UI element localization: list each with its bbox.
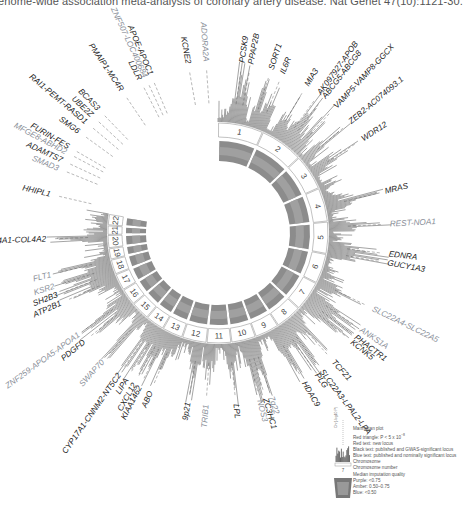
chromosome-rings: 12345678910111213141516171819202122 [108, 123, 328, 343]
locus-label: SWAP70 [77, 357, 106, 388]
chromosome-22: 22 [108, 214, 147, 227]
locus-label: TRIB1 [200, 404, 211, 428]
locus-label: LPL [232, 404, 242, 419]
chromosome-11: 11 [207, 305, 231, 343]
svg-text:7: 7 [342, 468, 345, 473]
legend-item-black-text: Black text: published and GWAS-significa… [353, 447, 456, 453]
chromosome-number: 21 [110, 225, 119, 235]
locus-label: HHIPL1 [21, 183, 51, 198]
locus-label: MIA3 [303, 66, 321, 87]
locus-label: FLT1 [32, 270, 52, 283]
locus-label: GUCY1A3 [387, 258, 427, 274]
locus-label: WDR12 [360, 120, 389, 143]
chromosome-number: 20 [110, 236, 120, 246]
legend-item-blue: Blue: <0.50 [353, 490, 456, 496]
chromosome-number: 22 [111, 215, 121, 225]
chromosome-21: 21 [108, 225, 146, 235]
locus-label: KCNE2 [179, 36, 193, 65]
locus-label: MRAS [384, 181, 410, 196]
legend-item-chromosome-number: Chromosome number [353, 465, 456, 471]
locus-label: ADORA2A [199, 21, 211, 62]
chromosome-number: 11 [215, 331, 224, 340]
locus-label: COL4A1-COL4A2 [0, 234, 47, 245]
chromosome-5: 5 [289, 222, 328, 253]
legend-graphic: 7Chr(-log10 P) [334, 407, 352, 498]
locus-label: 9p21 [181, 402, 193, 422]
locus-label: IL6R [278, 56, 293, 75]
locus-label: REST-NOA1 [390, 217, 437, 228]
locus-label: ZNF259-APOA5-APOA1 [3, 330, 82, 391]
legend-item-red-triangle: Red triangle: P < 5 x 10−8 [353, 432, 456, 441]
legend: Manhattan plot Red triangle: P < 5 x 10−… [353, 426, 456, 497]
locus-label: CYP17A1-CNNM2-NT5C2 [60, 371, 123, 456]
locus-label: PMAIP1-MC4R [87, 41, 126, 92]
svg-text:Chr(-log10 P): Chr(-log10 P) [334, 407, 338, 428]
